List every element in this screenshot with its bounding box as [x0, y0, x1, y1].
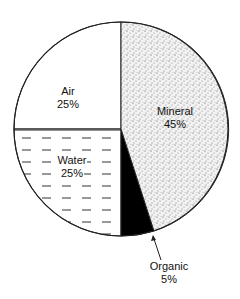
label-organic-pct: 5%	[146, 273, 192, 286]
label-air-name: Air	[48, 85, 88, 98]
label-air: Air 25%	[48, 85, 88, 111]
slice-air	[14, 22, 121, 129]
label-mineral-name: Mineral	[150, 105, 200, 118]
label-water-pct: 25%	[60, 167, 84, 179]
label-water-name: Water	[57, 154, 88, 166]
pie-chart	[0, 0, 240, 299]
label-organic: Organic 5%	[146, 260, 192, 286]
label-water: Water 25%	[52, 154, 92, 180]
label-air-pct: 25%	[48, 98, 88, 111]
label-organic-name: Organic	[146, 260, 192, 273]
slice-water	[14, 129, 121, 236]
label-mineral-pct: 45%	[150, 118, 200, 131]
label-mineral: Mineral 45%	[150, 105, 200, 131]
